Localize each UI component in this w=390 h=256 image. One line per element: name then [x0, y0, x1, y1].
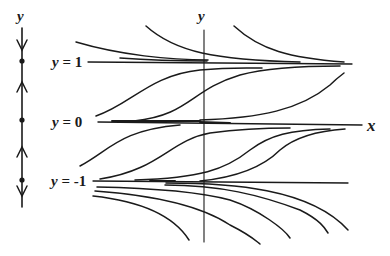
label-eq: =: [58, 173, 74, 189]
equilibrium-line-y1: [88, 62, 352, 64]
label-eq: =: [59, 54, 75, 70]
equilibrium-dot: [19, 117, 24, 122]
label-value: 1: [75, 54, 83, 70]
label-value: 0: [75, 114, 83, 130]
solution-curves-above-1: [76, 26, 344, 62]
label-var: y: [52, 54, 59, 70]
equilibrium-label-ym1: y = -1: [51, 174, 86, 189]
equilibrium-dot: [19, 58, 24, 63]
solution-curves-m1-to-0: [80, 125, 345, 181]
label-value: -1: [74, 173, 87, 189]
equilibrium-label-y1: y = 1: [52, 55, 82, 70]
solution-curves-0-to-1: [96, 66, 344, 121]
equilibrium-line-ym1: [93, 181, 348, 183]
label-eq: =: [59, 114, 75, 130]
label-var: y: [52, 114, 59, 130]
equilibrium-label-y0: y = 0: [52, 115, 82, 130]
phase-line: [17, 28, 27, 207]
phase-line-y-label: y: [17, 9, 24, 24]
equilibrium-dot: [19, 177, 24, 182]
solution-curves-below-m1: [93, 183, 348, 244]
x-axis-label: x: [367, 117, 376, 134]
label-var: y: [51, 173, 58, 189]
y-axis-label: y: [198, 9, 205, 24]
